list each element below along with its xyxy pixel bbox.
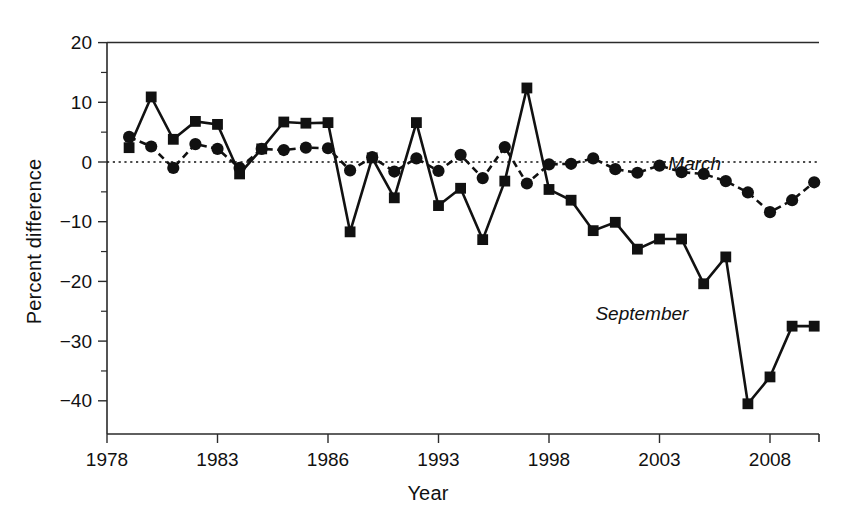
data-point-september [367,152,378,163]
data-point-march [189,138,201,150]
data-point-september [256,143,267,154]
data-point-september [522,83,533,94]
y-tick-label: 20 [71,32,92,53]
data-point-september [433,200,444,211]
data-point-march [499,141,511,153]
x-tick-label: 2003 [638,449,680,470]
data-point-march [653,159,665,171]
data-point-march [410,152,422,164]
data-point-march [388,165,400,177]
data-point-september [787,321,798,332]
data-series-layer [123,83,820,410]
series-label-march: March [668,153,721,174]
x-tick-label: 1993 [417,449,459,470]
data-point-september [190,116,201,127]
data-point-september [411,117,422,128]
x-tick-label: 1983 [196,449,238,470]
data-point-march [145,140,157,152]
plot-frame [107,43,819,443]
data-point-september [632,244,643,255]
series-line-september [129,88,814,404]
data-point-march [808,176,820,188]
data-point-september [765,372,776,383]
data-point-march [477,172,489,184]
data-point-september [698,278,709,289]
chart-canvas: 20100−10−20−30−4019781983198619931998200… [0,0,856,531]
data-point-september [323,117,334,128]
data-point-september [146,92,157,103]
data-point-march [521,177,533,189]
data-point-march [631,167,643,179]
data-point-september [654,234,665,245]
series-label-september: September [595,303,689,324]
data-point-march [211,143,223,155]
data-point-march [344,164,356,176]
tick-marks-layer [98,43,770,443]
data-point-september [676,234,687,245]
x-tick-label: 1986 [307,449,349,470]
data-point-september [499,176,510,187]
data-point-march [587,152,599,164]
data-point-september [544,184,555,195]
data-point-september [168,134,179,145]
x-tick-label: 2008 [749,449,791,470]
x-tick-label: 1978 [86,449,128,470]
data-point-march [455,149,467,161]
data-point-september [809,321,820,332]
data-point-september [389,192,400,203]
data-point-september [720,252,731,263]
data-point-september [588,225,599,236]
x-axis-title: Year [0,482,856,505]
data-point-september [610,217,621,228]
data-point-september [455,183,466,194]
series-line-march [129,137,814,212]
y-tick-label: −40 [60,390,92,411]
axes-layer [107,43,819,443]
tick-labels-layer: 20100−10−20−30−4019781983198619931998200… [60,32,791,470]
y-tick-label: −30 [60,331,92,352]
data-point-september [212,119,223,130]
data-point-september [477,234,488,245]
data-point-march [432,165,444,177]
y-tick-label: 10 [71,92,92,113]
y-tick-label: 0 [81,152,92,173]
y-tick-label: −10 [60,211,92,232]
data-point-september [278,117,289,128]
data-point-september [345,226,356,237]
x-tick-label: 1998 [528,449,570,470]
data-point-march [786,194,798,206]
data-point-september [124,142,135,153]
data-point-september [566,195,577,206]
data-point-september [743,398,754,409]
data-point-march [300,142,312,154]
data-point-march [565,158,577,170]
data-point-september [234,169,245,180]
chart-figure: 20100−10−20−30−4019781983198619931998200… [0,0,856,531]
y-tick-label: −20 [60,271,92,292]
data-point-march [609,163,621,175]
data-point-march [742,186,754,198]
data-point-march [720,175,732,187]
data-point-march [278,144,290,156]
y-axis-title: Percent difference [23,132,46,352]
data-point-september [301,118,312,129]
data-point-march [764,206,776,218]
data-point-march [167,162,179,174]
